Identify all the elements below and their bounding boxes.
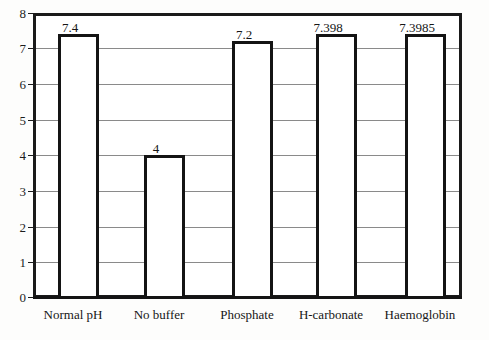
plot-area — [33, 13, 462, 298]
bar-phosphate — [232, 41, 273, 298]
bar-normal-ph — [58, 34, 99, 298]
x-axis-baseline — [33, 296, 462, 299]
y-tick-label-5: 5 — [0, 114, 26, 127]
bar-no-buffer — [144, 155, 185, 298]
y-tick-label-3: 3 — [0, 185, 26, 198]
bar-haemoglobin — [405, 34, 446, 298]
bar-h-carbonate — [316, 34, 357, 298]
y-tick-label-0: 0 — [0, 291, 26, 304]
bar-value-h-carbonate: 7.398 — [293, 21, 363, 34]
bar-value-normal-ph: 7.4 — [35, 21, 105, 34]
y-tick-label-6: 6 — [0, 78, 26, 91]
x-category-label-h-carbonate: H-carbonate — [281, 308, 381, 321]
y-tick-label-1: 1 — [0, 256, 26, 269]
bar-value-no-buffer: 4 — [121, 142, 191, 155]
y-tick-label-7: 7 — [0, 42, 26, 55]
bar-chart-figure: 8 7 6 5 4 3 2 1 0 7.4 4 7. — [0, 0, 489, 340]
y-tick-label-8: 8 — [0, 7, 26, 20]
x-category-label-no-buffer: No buffer — [109, 308, 209, 321]
bar-value-phosphate: 7.2 — [209, 28, 279, 41]
x-category-label-haemoglobin: Haemoglobin — [370, 308, 470, 321]
bar-value-haemoglobin: 7.3985 — [382, 21, 452, 34]
y-tick-label-4: 4 — [0, 149, 26, 162]
x-category-label-normal-ph: Normal pH — [23, 308, 123, 321]
y-tick-label-2: 2 — [0, 221, 26, 234]
